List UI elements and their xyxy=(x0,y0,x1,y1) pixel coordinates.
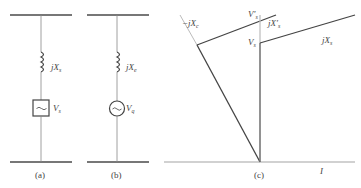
panel-b-reactance-sub: e xyxy=(134,67,137,73)
panel-a-reactance-label: jXs xyxy=(51,63,61,73)
jxs-prime-sub: s xyxy=(278,23,280,29)
panel-a-source-sub: s xyxy=(59,108,61,114)
jxs-label: jXs xyxy=(322,36,332,46)
jxs-prime-prefix: jX′ xyxy=(268,18,278,28)
diagram-canvas xyxy=(0,0,361,188)
jxs-sub: s xyxy=(330,40,332,46)
vs-label: Vs xyxy=(248,38,256,48)
neg-jxc-phasor xyxy=(197,45,260,162)
neg-jxc-sub: c xyxy=(196,23,199,29)
panel-a-circuit xyxy=(10,15,72,162)
panel-a-reactance-prefix: jX xyxy=(51,62,59,72)
panel-b-reactance-label: jXe xyxy=(126,63,137,73)
panel-b-source-sub: q xyxy=(132,108,135,114)
vs-sub: s xyxy=(254,42,256,48)
neg-jxc-prefix: −jX xyxy=(182,18,196,28)
panel-a-reactance-sub: s xyxy=(59,67,61,73)
panel-b-caption: (b) xyxy=(111,171,122,180)
jxs-prime-label: jX′s xyxy=(268,19,280,29)
panel-b-source-label: Vq xyxy=(126,104,135,114)
panel-b-inductor-icon xyxy=(117,52,120,72)
panel-b-circuit xyxy=(87,15,149,162)
jxs-prefix: jX xyxy=(322,35,330,45)
panel-a-inductor-icon xyxy=(41,52,44,72)
panel-c-caption: (c) xyxy=(254,171,264,180)
current-label: I xyxy=(320,167,323,176)
panel-b-reactance-prefix: jX xyxy=(126,62,134,72)
vs-prime-label: V′s xyxy=(248,10,258,20)
panel-a-source-label: Vs xyxy=(53,104,61,114)
vs-prime-sub: s xyxy=(255,14,257,20)
neg-jxc-label: −jXc xyxy=(182,19,199,29)
jxs-prime-phasor xyxy=(197,15,276,45)
panel-a-caption: (a) xyxy=(35,171,45,180)
